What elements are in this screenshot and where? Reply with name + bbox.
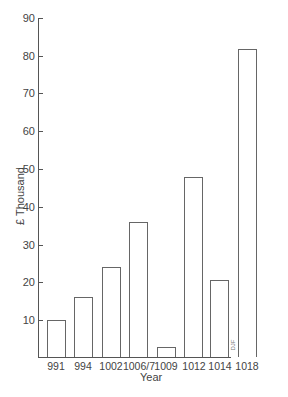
- y-tick: [38, 282, 43, 283]
- credit-text: DJF: [230, 340, 236, 351]
- y-tick-label: 20: [5, 277, 35, 288]
- bar-1002: [102, 267, 121, 357]
- y-tick: [38, 93, 43, 94]
- y-tick: [38, 320, 43, 321]
- bar-1012: [184, 177, 203, 357]
- y-tick: [38, 56, 43, 57]
- bar-991: [47, 320, 66, 357]
- y-tick: [38, 131, 43, 132]
- y-tick-label: 80: [5, 51, 35, 62]
- y-tick-label: 10: [5, 315, 35, 326]
- y-tick: [38, 169, 43, 170]
- y-tick-label: 60: [5, 126, 35, 137]
- y-tick-label: 90: [5, 13, 35, 24]
- bar-1018: [238, 49, 257, 357]
- bar-1014: [210, 280, 229, 357]
- x-tick-label: 1018: [227, 360, 267, 372]
- y-tick: [38, 207, 43, 208]
- x-axis-label: Year: [140, 371, 162, 383]
- bar-1006-7: [129, 222, 148, 357]
- y-tick: [38, 18, 43, 19]
- y-axis: [38, 18, 39, 358]
- y-tick-label: 70: [5, 88, 35, 99]
- bar-1009: [157, 347, 176, 357]
- bar-994: [74, 297, 93, 357]
- y-tick-label: 30: [5, 240, 35, 251]
- y-axis-label: £ Thousand: [14, 156, 26, 236]
- x-axis: [38, 357, 231, 358]
- y-tick: [38, 245, 43, 246]
